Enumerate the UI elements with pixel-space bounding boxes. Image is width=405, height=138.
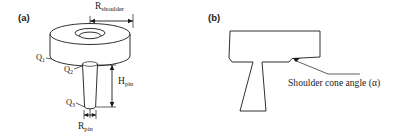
figure-drawing [0,0,405,138]
pin-body [83,64,98,109]
pin-top-ellipse [83,62,98,67]
q2-leader-line [74,66,83,69]
rshoulder-dimension-arrow [90,19,133,24]
dimension-label-shoulder-radius: Rshoulder [95,2,124,12]
point-label-q1: Q1 [36,54,45,62]
tool-drawing-3d [46,14,133,119]
point-label-q3: Q3 [66,99,75,107]
dimension-label-pin-height: Hpin [118,77,133,87]
shoulder-hole-inner-ellipse [80,32,101,39]
tshape-profile [229,31,320,111]
dimension-label-pin-radius: Rpin [78,122,93,132]
point-label-q2: Q2 [64,66,73,74]
tool-drawing-cross-section [229,31,360,111]
cone-angle-caption: Shoulder cone angle (α) [288,78,380,88]
hpin-dimension-arrow [110,65,115,107]
q3-leader-line [76,103,85,107]
figure-container: (a) (b) [0,0,405,138]
cone-angle-leader-line [294,60,360,74]
